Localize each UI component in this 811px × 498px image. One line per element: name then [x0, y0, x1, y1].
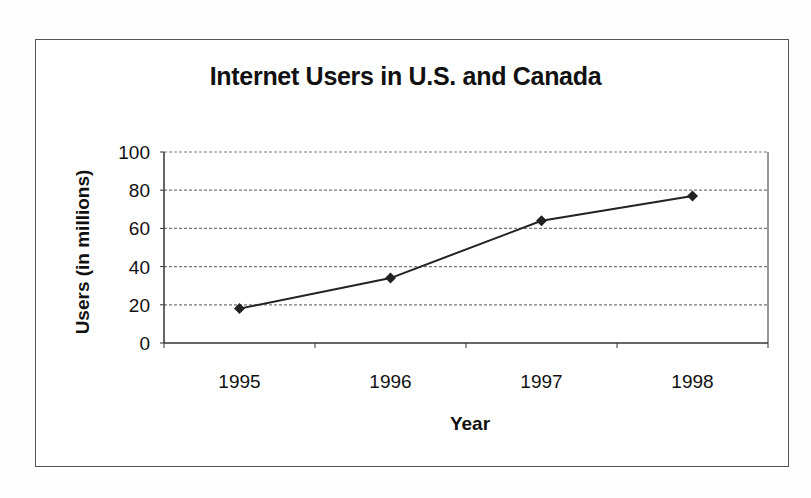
x-tick-label: 1995: [218, 371, 260, 392]
diamond-marker-icon: [687, 190, 698, 201]
y-tick-labels: 020406080100: [118, 142, 150, 354]
y-tick-label: 60: [129, 218, 150, 239]
x-tick-labels: 1995199619971998: [218, 371, 713, 392]
y-tick-label: 0: [139, 333, 150, 354]
diamond-marker-icon: [536, 215, 547, 226]
series-line: [240, 196, 693, 309]
gridlines: [164, 152, 768, 305]
x-tick-label: 1996: [369, 371, 411, 392]
x-tick-label: 1998: [671, 371, 713, 392]
y-tick-label: 40: [129, 257, 150, 278]
y-tick-label: 20: [129, 295, 150, 316]
x-tick-label: 1997: [520, 371, 562, 392]
y-tick-label: 80: [129, 180, 150, 201]
diamond-marker-icon: [385, 273, 396, 284]
y-tick-label: 100: [118, 142, 150, 163]
plot-area: 020406080100 1995199619971998: [0, 0, 811, 498]
data-series: [234, 190, 698, 314]
